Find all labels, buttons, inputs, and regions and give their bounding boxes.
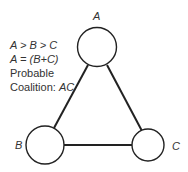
node-b-label: B	[15, 139, 22, 151]
coalition-value: AC	[59, 81, 74, 93]
annotation-line-4: Coalition: AC	[10, 80, 74, 94]
annotation-line-2: A = (B+C)	[10, 52, 59, 66]
edge-a-b	[54, 65, 88, 128]
node-b-circle	[26, 126, 64, 164]
node-a-circle	[78, 28, 117, 67]
annotation-line-3: Probable	[10, 66, 54, 80]
node-c-circle	[132, 129, 164, 161]
annotation-line-1: A > B > C	[10, 38, 57, 52]
node-c-label: C	[172, 140, 180, 152]
edge-a-c	[107, 65, 142, 131]
coalition-prefix: Coalition:	[10, 81, 59, 93]
node-a-label: A	[93, 10, 100, 22]
